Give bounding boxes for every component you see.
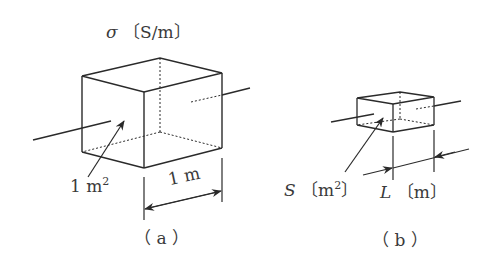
area-exponent: 2 — [102, 175, 109, 188]
area-value: 1 m — [70, 176, 102, 196]
conductor-diagram: σ 〔S/m〕 1 m2 1 m （ a ） S 〔m2〕 L 〔m〕 （ b … — [0, 0, 499, 265]
conductivity-unit: 〔S/m〕 — [123, 22, 191, 42]
length-symbol-label: L 〔m〕 — [380, 184, 447, 201]
caption-a: （ a ） — [134, 230, 189, 247]
current-line-b — [331, 101, 461, 122]
sigma-symbol: σ — [106, 22, 118, 42]
area-symbol: S — [284, 180, 296, 200]
current-line-a — [33, 88, 250, 140]
diagram-drawing — [0, 0, 499, 265]
length-dimension-b — [363, 130, 469, 180]
area-unit: 〔m — [301, 180, 334, 200]
area-symbol-label: S 〔m2〕 — [284, 180, 358, 199]
length-symbol: L — [380, 182, 391, 202]
unit-cube-a — [82, 58, 222, 168]
unit-area-label: 1 m2 — [70, 176, 109, 195]
caption-b: （ b ） — [372, 232, 428, 249]
length-unit: 〔m〕 — [397, 182, 447, 202]
area-unit-close: 〕 — [341, 180, 358, 200]
conductor-cube-b — [357, 92, 434, 132]
conductivity-label: σ 〔S/m〕 — [106, 24, 191, 41]
